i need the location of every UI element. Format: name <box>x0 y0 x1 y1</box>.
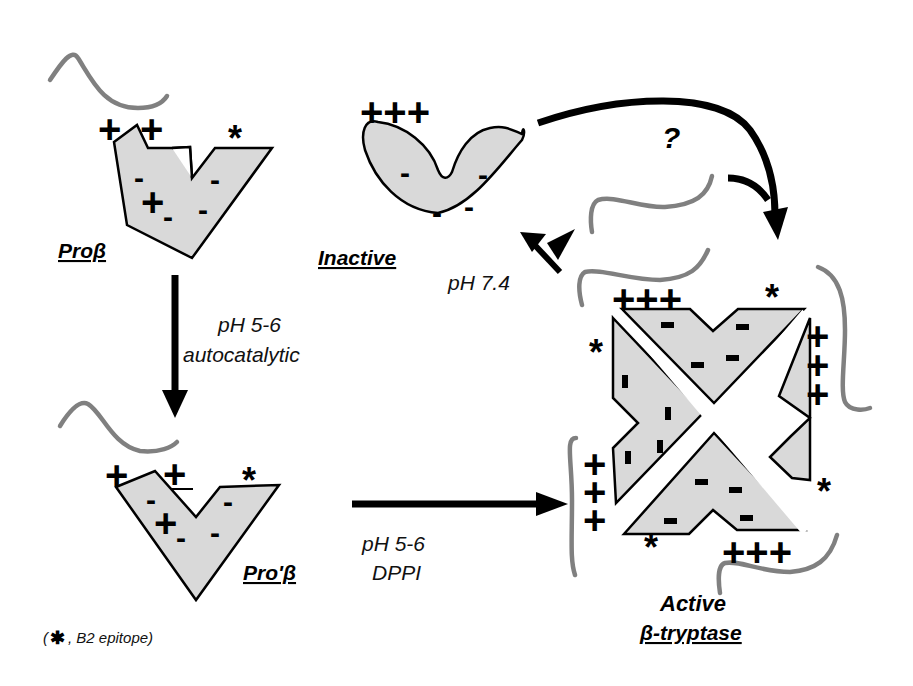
minus-charge: - <box>163 200 173 233</box>
plus-charges-bottom: +++ <box>722 530 792 574</box>
pro-prime-beta-label: Pro'β <box>243 561 296 584</box>
edge-label-dppi: DPPI <box>372 561 421 584</box>
plus-charge: + <box>163 452 186 496</box>
b2-epitope-star: * <box>228 118 242 159</box>
propeptide-tail <box>50 55 167 108</box>
legend-star-icon: ✱ <box>50 628 65 648</box>
legend-text: , B2 epitope) <box>68 629 153 646</box>
plus-charge: + <box>140 107 163 151</box>
plus-charge: + <box>98 107 121 151</box>
inactive-label: Inactive <box>318 246 397 269</box>
arrow-unknown-reassociation: ? <box>538 101 788 240</box>
pro-beta-monomer: + + * - + - - - Proβ <box>50 55 272 262</box>
pro-beta-label: Proβ <box>58 239 106 262</box>
minus-charge: - <box>432 196 442 229</box>
plus-charge: + <box>141 180 164 224</box>
edge-label-ph: pH 5-6 <box>361 532 425 555</box>
minus-charge: - <box>210 163 220 196</box>
plus-charge: + <box>806 372 829 416</box>
minus-charge: - <box>464 190 474 223</box>
unknown-pathway-question: ? <box>662 121 680 154</box>
arrow-dppi: pH 5-6 DPPI <box>352 492 568 584</box>
arrow-autocatalytic: pH 5-6 autocatalytic <box>162 275 300 418</box>
legend: ( ✱ , B2 epitope) <box>43 628 153 648</box>
edge-label-autocatalytic: autocatalytic <box>183 343 300 366</box>
b2-epitope-star: * <box>765 277 779 318</box>
plus-charges: +++ <box>360 90 430 134</box>
b2-epitope-star: * <box>644 527 658 568</box>
minus-charge: - <box>210 516 220 549</box>
b2-epitope-star: * <box>589 332 603 373</box>
propeptide-tail <box>60 403 177 451</box>
plus-charge: + <box>583 498 606 542</box>
plus-charge: + <box>105 453 128 497</box>
minus-charge: - <box>198 193 208 226</box>
minus-charge: - <box>223 485 233 518</box>
legend-open-paren: ( <box>43 629 50 646</box>
arrow-dissociation: pH 7.4 <box>447 229 575 294</box>
edge-label-ph: pH 5-6 <box>217 313 281 336</box>
plus-charge: + <box>154 501 177 545</box>
b2-epitope-star: * <box>817 471 831 512</box>
minus-charge: - <box>176 521 186 554</box>
minus-charge: - <box>478 158 488 191</box>
minus-charge: - <box>400 156 410 189</box>
tryptase-activation-diagram: + + * - + - - - Proβ pH 5-6 autocatalyti… <box>0 0 913 686</box>
pro-prime-beta-monomer: + + * - + - - - Pro'β <box>60 403 296 600</box>
b2-epitope-star: * <box>242 460 256 501</box>
inactive-monomer: +++ - - - - Inactive <box>318 90 524 269</box>
edge-label-ph74: pH 7.4 <box>447 271 510 294</box>
beta-tryptase-label: β-tryptase <box>639 621 742 644</box>
plus-charges-top: +++ <box>612 277 682 321</box>
inactive-shape <box>363 121 524 213</box>
active-label: Active <box>659 591 726 616</box>
active-tryptase-tetramer: +++ +++ + + + + + + * * * * Active β-try… <box>570 176 870 644</box>
